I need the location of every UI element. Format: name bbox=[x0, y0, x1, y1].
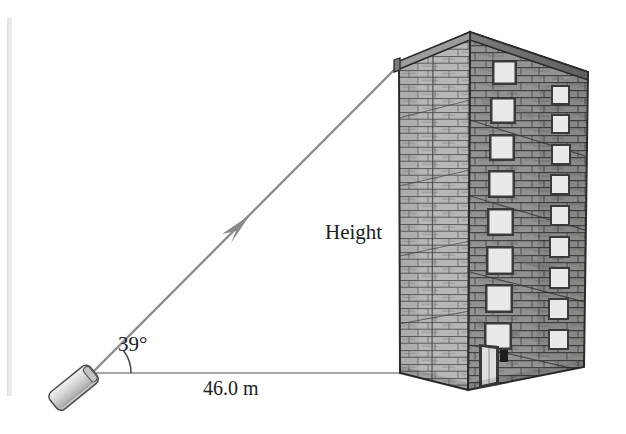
window-column-far bbox=[548, 85, 571, 350]
window bbox=[549, 236, 570, 258]
window bbox=[492, 60, 517, 85]
window bbox=[489, 134, 515, 161]
left-margin-rule bbox=[7, 18, 12, 396]
window bbox=[487, 208, 514, 236]
stone-apartment-building bbox=[394, 32, 588, 390]
distance-label: 46.0 m bbox=[203, 378, 259, 398]
building-left-face bbox=[399, 32, 470, 390]
diagram-svg bbox=[0, 0, 626, 434]
window bbox=[548, 298, 569, 320]
window bbox=[490, 97, 516, 124]
figure-canvas: 39° 46.0 m Height bbox=[0, 0, 626, 434]
window bbox=[550, 174, 570, 195]
window bbox=[486, 246, 514, 275]
window bbox=[548, 329, 569, 350]
window bbox=[551, 114, 570, 134]
line-of-sight-arrow bbox=[93, 63, 401, 372]
height-label: Height bbox=[325, 222, 382, 243]
window bbox=[551, 144, 571, 165]
window bbox=[485, 284, 513, 313]
window bbox=[550, 205, 570, 226]
window bbox=[488, 170, 515, 198]
window bbox=[551, 85, 570, 105]
laser-rangefinder[interactable] bbox=[46, 363, 100, 413]
angle-label: 39° bbox=[118, 334, 147, 355]
window bbox=[549, 267, 570, 289]
